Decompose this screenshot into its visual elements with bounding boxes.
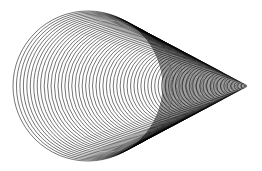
concentric-cone-circles-diagram xyxy=(0,0,262,171)
circle-series xyxy=(13,11,247,161)
figure xyxy=(0,0,262,171)
